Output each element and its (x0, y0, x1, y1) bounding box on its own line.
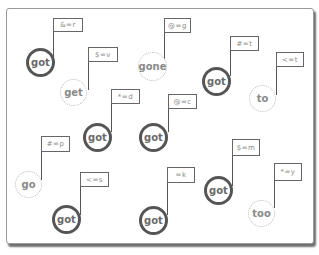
flag-label: $=v (88, 47, 118, 62)
flag-label: <=s (80, 172, 109, 187)
word-node-got: got (139, 206, 168, 235)
flag-label: &=r (53, 18, 83, 32)
word-node-gone: gone (138, 52, 167, 81)
word-node-got: got (52, 205, 81, 234)
flag-label: *=y (274, 163, 302, 181)
flag-label: *=d (111, 89, 140, 104)
flag-label: @=c (168, 94, 197, 109)
word-node-got: got (202, 67, 231, 96)
word-node-got: got (26, 48, 55, 77)
flag-label: @=g (164, 18, 191, 33)
word-node-got: got (83, 123, 112, 152)
word-node-got: got (204, 176, 233, 205)
word-node-get: get (60, 79, 87, 106)
word-node-too: too (248, 200, 275, 227)
word-node-go: go (15, 171, 42, 198)
flag-label: $=m (232, 139, 260, 156)
flag-label: #=p (41, 136, 70, 152)
word-node-got: got (139, 123, 168, 152)
flag-label: #=t (230, 36, 259, 51)
flag-label: =k (167, 167, 195, 183)
flag-label: <=t (276, 52, 304, 67)
word-node-to: to (249, 85, 276, 112)
